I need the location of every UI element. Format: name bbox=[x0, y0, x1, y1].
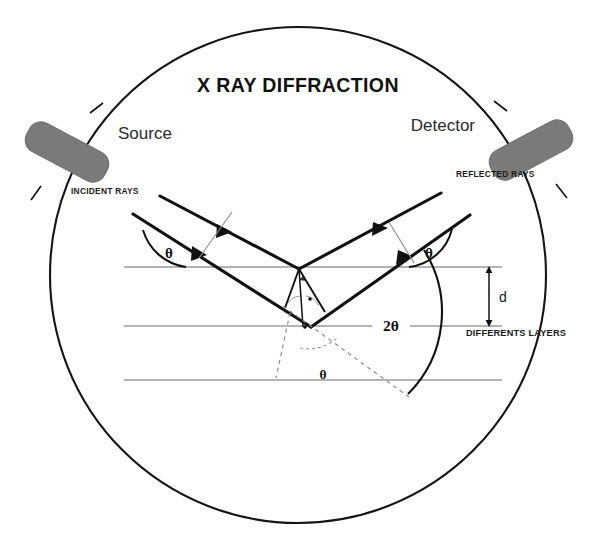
incident-rays-label: INCIDENT RAYS bbox=[71, 186, 139, 196]
theta-left-label: θ bbox=[165, 245, 173, 261]
two-theta-label: 2θ bbox=[383, 317, 399, 334]
d-spacing-label: d bbox=[499, 289, 507, 305]
detector-label: Detector bbox=[411, 116, 476, 135]
source-label: Source bbox=[118, 124, 172, 143]
path-difference-dot bbox=[308, 297, 312, 301]
detector-lead-upper bbox=[494, 101, 507, 111]
theta-bottom-label: θ bbox=[319, 367, 326, 382]
different-layers-label: DIFFERENTS LAYERS bbox=[466, 328, 566, 338]
xray-diffraction-figure: X RAY DIFFRACTION bbox=[0, 0, 598, 543]
detector-lead-lower bbox=[556, 184, 567, 198]
second-layer-reflection-dot bbox=[303, 325, 307, 329]
source-lead-upper bbox=[90, 103, 103, 113]
diagram-canvas: X RAY DIFFRACTION bbox=[0, 0, 598, 543]
reflected-rays-label: REFLECTED RAYS bbox=[456, 169, 535, 179]
goniometer-circle bbox=[50, 27, 546, 523]
figure-title: X RAY DIFFRACTION bbox=[197, 74, 399, 96]
source-lead-lower bbox=[31, 186, 41, 200]
